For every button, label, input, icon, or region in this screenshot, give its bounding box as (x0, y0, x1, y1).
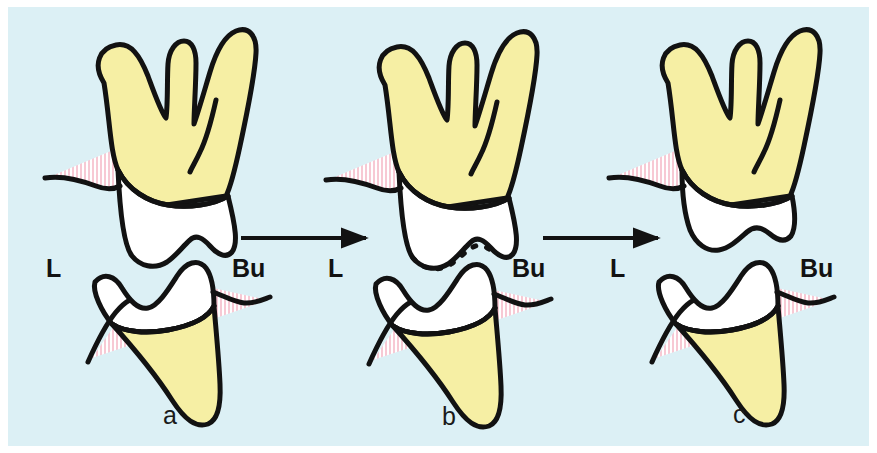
panel-b-caption: b (442, 402, 456, 430)
panel-b-buccal-label: Bu (512, 254, 545, 282)
panel-b-lingual-label: L (328, 254, 343, 282)
figure-container: L Bu a (0, 0, 877, 453)
panel-c-buccal-label: Bu (800, 254, 833, 282)
panel-a-caption: a (163, 401, 177, 429)
panel-c-lingual-label: L (610, 254, 625, 282)
panel-a-buccal-label: Bu (232, 254, 265, 282)
panel-c-caption: c (733, 400, 746, 428)
panel-a-lingual-label: L (46, 254, 61, 282)
occlusion-sequence-svg: L Bu a (0, 0, 877, 453)
